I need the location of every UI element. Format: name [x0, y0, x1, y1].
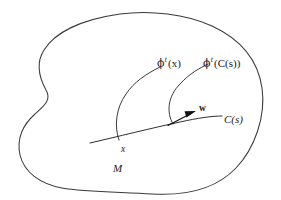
tangent-vector-arrow — [168, 111, 196, 126]
tangent-vector-arrowhead — [185, 111, 197, 118]
figure-canvas — [0, 0, 281, 200]
phi-glyph: ϕ — [157, 57, 165, 70]
base-curve-label: C(s) — [224, 114, 243, 125]
flow-of-point-argument: (x) — [168, 57, 181, 69]
manifold-label: M — [113, 163, 122, 174]
phi-glyph: ϕ — [203, 57, 211, 70]
phi-superscript-t: t — [211, 55, 213, 64]
manifold-boundary-path — [19, 13, 263, 195]
base-curve-path — [90, 116, 222, 143]
flow-of-curve-label: ϕt(C(s)) — [203, 56, 240, 69]
base-point-label: x — [121, 145, 125, 155]
flow-of-curve-argument: (C(s)) — [214, 57, 240, 69]
tangent-vector-label: w — [199, 104, 206, 114]
flow-of-point-label: ϕt(x) — [157, 56, 181, 69]
phi-superscript-t: t — [165, 55, 167, 64]
manifold-flow-figure: ϕt(x) ϕt(C(s)) w C(s) x M — [0, 0, 281, 200]
flow-curve-through-x-path — [116, 67, 160, 140]
